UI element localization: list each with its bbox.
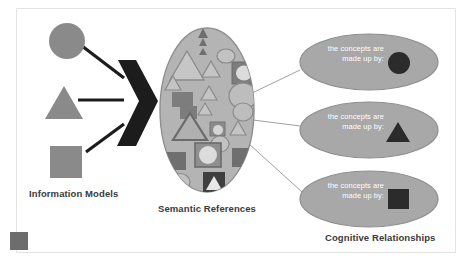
connector-square-to-arrow	[86, 124, 124, 152]
cluster-circle	[213, 125, 223, 135]
cluster-circle	[217, 49, 235, 63]
figure-root: the concepts are made up by: the concept…	[0, 0, 470, 268]
connector-circle-to-arrow	[82, 46, 124, 78]
caption-information-models: Information Models	[29, 188, 118, 199]
bubble-label: the concepts are made up by:	[306, 44, 384, 63]
cluster-circle	[199, 146, 217, 164]
bubble-label: the concepts are made up by:	[306, 112, 384, 131]
caption-semantic-references: Semantic References	[158, 203, 256, 214]
diagram-canvas	[0, 0, 470, 268]
cluster-circle	[233, 103, 253, 121]
cloud-to-bubble-connectors	[248, 70, 302, 192]
dark-square-glyph	[388, 189, 409, 209]
cluster-square	[163, 152, 186, 170]
bubble-label: the concepts are made up by:	[306, 181, 384, 200]
expand-icon[interactable]	[10, 232, 28, 250]
cluster-circle	[170, 174, 190, 191]
semantic-references-ellipse	[160, 28, 257, 192]
connector-cloud-to-bubble-3	[248, 143, 302, 192]
square-shape	[50, 146, 82, 178]
source-connectors	[78, 46, 124, 152]
caption-cognitive-relationships: Cognitive Relationships	[325, 232, 436, 243]
connector-cloud-to-bubble-2	[253, 120, 300, 126]
cluster-square	[172, 92, 193, 107]
connector-cloud-to-bubble-1	[250, 70, 300, 94]
chevron-arrow-icon	[117, 60, 158, 146]
triangle-shape	[45, 86, 83, 119]
circle-shape	[49, 23, 85, 59]
dark-circle-glyph	[388, 52, 410, 74]
